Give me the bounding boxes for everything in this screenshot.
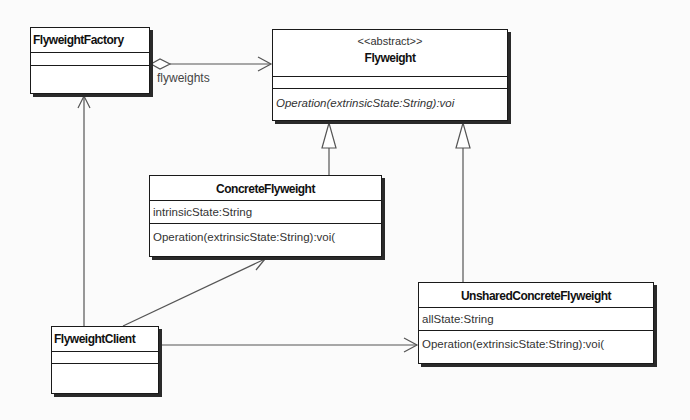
inheritance-triangle-icon [456, 123, 470, 148]
class-name-section: FlyweightFactory [31, 28, 149, 52]
class-name: Flyweight [273, 50, 507, 66]
class-name-section: ConcreteFlyweight [150, 176, 381, 200]
operation-item: Operation(extrinsicState:String):voi [273, 95, 507, 111]
association-client-concrete [123, 259, 265, 326]
class-name: FlyweightClient [52, 331, 158, 347]
class-name: UnsharedConcreteFlyweight [419, 288, 653, 304]
generalization-unshared-flyweight [456, 123, 470, 282]
attribute-item: allState:String [419, 311, 653, 327]
class-flyweight-client[interactable]: FlyweightClient [51, 326, 159, 394]
class-name-section: FlyweightClient [52, 327, 158, 351]
operations-section: Operation(extrinsicState:String):voi( [150, 223, 381, 257]
aggregation-diamond-icon [151, 59, 170, 69]
class-name-section: <<abstract>> Flyweight [273, 30, 507, 76]
class-unshared-concrete-flyweight[interactable]: UnsharedConcreteFlyweight allState:Strin… [418, 282, 654, 364]
association-client-unshared [159, 338, 417, 352]
attributes-section [52, 351, 158, 363]
class-flyweight[interactable]: <<abstract>> Flyweight Operation(extrins… [272, 29, 508, 121]
attributes-section [273, 76, 507, 88]
attribute-item: intrinsicState:String [150, 204, 381, 220]
attributes-section [31, 52, 149, 65]
uml-diagram-canvas: flyweights FlyweightFactory <<abstract>>… [0, 0, 690, 420]
class-name-section: UnsharedConcreteFlyweight [419, 283, 653, 307]
attributes-section: intrinsicState:String [150, 200, 381, 223]
operations-section [31, 65, 149, 94]
class-concrete-flyweight[interactable]: ConcreteFlyweight intrinsicState:String … [149, 175, 382, 257]
inheritance-triangle-icon [322, 123, 336, 148]
association-client-factory [78, 96, 90, 326]
operation-item: Operation(extrinsicState:String):voi( [419, 336, 653, 352]
operations-section: Operation(extrinsicState:String):voi [273, 88, 507, 121]
operations-section [52, 363, 158, 394]
generalization-concrete-flyweight [322, 123, 336, 175]
attributes-section: allState:String [419, 307, 653, 330]
operation-item: Operation(extrinsicState:String):voi( [150, 229, 381, 245]
class-name: FlyweightFactory [31, 32, 149, 48]
class-name: ConcreteFlyweight [150, 181, 381, 197]
operations-section: Operation(extrinsicState:String):voi( [419, 330, 653, 364]
aggregation-factory-flyweight [151, 57, 271, 71]
class-flyweight-factory[interactable]: FlyweightFactory [30, 27, 150, 94]
stereotype-label: <<abstract>> [273, 30, 507, 48]
association-label-flyweights: flyweights [157, 71, 210, 85]
